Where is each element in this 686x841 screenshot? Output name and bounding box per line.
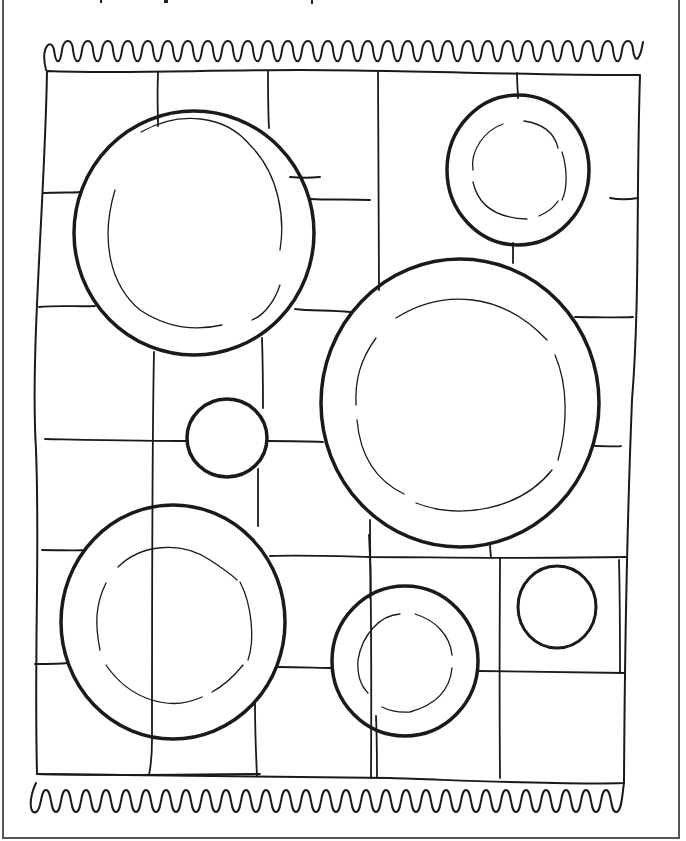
cropped-text-marks bbox=[100, 0, 313, 4]
picnic-blanket-illustration bbox=[0, 0, 686, 841]
plate-large-top-left bbox=[74, 111, 314, 355]
plate-medium-bottom-center bbox=[332, 586, 478, 736]
bowl-small-bottom-right bbox=[518, 566, 596, 648]
plate-large-bottom-left bbox=[61, 505, 285, 739]
plate-small-top-right bbox=[447, 95, 589, 245]
top-fringe bbox=[44, 41, 643, 70]
bottom-fringe bbox=[31, 783, 624, 812]
plate-large-center-right bbox=[321, 259, 599, 547]
bowl-small-center bbox=[187, 399, 267, 477]
blanket-outline bbox=[35, 70, 640, 784]
